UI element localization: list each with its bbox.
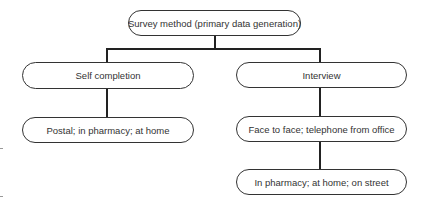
interview-node: Interview [236,62,407,88]
face-to-face-node: Face to face; telephone from office [236,116,407,142]
connector-face-to-pharmacy [319,142,321,169]
self-completion-node: Self completion [22,62,194,89]
connector-right-down [319,48,321,63]
root-label: Survey method (primary data generation) [128,18,301,29]
pharmacy-street-label: In pharmacy; at home; on street [254,177,388,188]
postal-node: Postal; in pharmacy; at home [22,117,194,143]
connector-self-to-postal [106,89,108,117]
connector-left-down [106,48,108,63]
interview-label: Interview [302,70,340,81]
connector-interview-to-face [319,88,321,116]
margin-mark [0,196,3,197]
margin-mark [0,148,3,149]
root-node: Survey method (primary data generation) [128,10,301,36]
connector-horizontal [106,48,321,50]
self-completion-label: Self completion [76,70,141,81]
postal-label: Postal; in pharmacy; at home [46,125,169,136]
pharmacy-street-node: In pharmacy; at home; on street [236,169,407,195]
face-to-face-label: Face to face; telephone from office [248,124,394,135]
connector-root-down [214,35,216,49]
